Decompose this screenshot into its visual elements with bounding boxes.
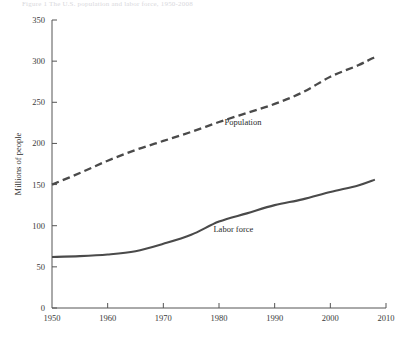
- x-tick-label: 1980: [211, 313, 228, 323]
- chart-figure: 050100150200250300350 195019601970198019…: [0, 0, 412, 340]
- x-tick-label: 1970: [155, 313, 172, 323]
- y-tick-label: 200: [32, 138, 45, 148]
- x-tick-label: 2000: [322, 313, 339, 323]
- y-axis-ticks: 050100150200250300350: [32, 15, 57, 313]
- x-tick-label: 1960: [99, 313, 116, 323]
- series-line-labor-force: [52, 180, 375, 257]
- population-labor-force-line-chart: 050100150200250300350 195019601970198019…: [0, 0, 412, 340]
- y-tick-label: 50: [37, 262, 46, 272]
- x-tick-label: 2010: [378, 313, 395, 323]
- y-tick-label: 350: [32, 15, 45, 25]
- series-line-population: [52, 57, 375, 185]
- y-axis-title: Millions of people: [13, 132, 23, 195]
- y-tick-label: 150: [32, 180, 45, 190]
- x-axis-ticks: 1950196019701980199020002010: [44, 303, 395, 323]
- x-tick-label: 1990: [266, 313, 283, 323]
- y-tick-label: 250: [32, 97, 45, 107]
- series-label-population: Population: [225, 117, 263, 127]
- y-tick-label: 100: [32, 221, 45, 231]
- x-tick-label: 1950: [44, 313, 61, 323]
- y-tick-label: 300: [32, 56, 45, 66]
- series-label-labor-force: Labor force: [213, 224, 253, 234]
- y-tick-label: 0: [41, 303, 45, 313]
